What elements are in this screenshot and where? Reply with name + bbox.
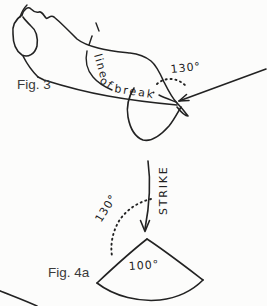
fig4a-strike-label: STRIKE	[157, 165, 170, 215]
fig3-angle-label: 130°	[170, 60, 202, 76]
fig4a-group	[0, 161, 203, 306]
scanned-figure-page: Fig. 3 line of break 130° Fig. 4a STRIKE…	[0, 0, 267, 306]
fig4a-strike-arrow-shaft	[145, 161, 149, 229]
fig3-break-dash-2	[89, 36, 92, 45]
fig4a-rotation-angle-label: 130°	[93, 192, 120, 225]
fig3-landmass-left-edge	[23, 56, 38, 77]
fig3-caption: Fig. 3	[17, 77, 51, 92]
hand-drawn-diagram: Fig. 3 line of break 130° Fig. 4a STRIKE…	[0, 0, 267, 306]
fig4a-caption: Fig. 4a	[48, 265, 90, 280]
fig3-claw-lobe	[13, 15, 37, 56]
fig4a-sector-bottom-arc	[97, 280, 203, 300]
stray-line-fragment	[0, 290, 37, 306]
fig3-angle-dotted-arc	[157, 79, 186, 86]
fig3-group	[13, 5, 266, 140]
fig4a-sector-angle-label: 100°	[128, 258, 159, 273]
fig3-break-dash-1	[96, 23, 99, 31]
